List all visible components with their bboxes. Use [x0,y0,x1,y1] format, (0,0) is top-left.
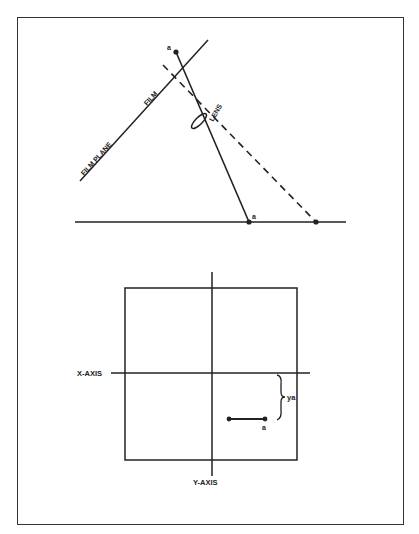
x-axis-label: X-AXIS [77,369,102,378]
ground-point-b [313,219,318,224]
film-plane-label: FILM PLANE [80,141,114,177]
ya-brace-icon [277,375,285,420]
film-frame-box [125,288,297,460]
film-point [173,49,178,54]
point-a-label: a [262,424,266,431]
segment-start-point [227,417,232,422]
top-figure: a a FILM PLANE FILM LENS [75,40,346,225]
ground-point-label: a [252,213,256,220]
diagram-canvas: a a FILM PLANE FILM LENS X-AXIS Y-AXIS y… [0,0,419,534]
y-axis-label: Y-AXIS [193,478,218,487]
film-point-label: a [167,44,171,51]
ground-point-a [246,219,251,224]
segment-end-point [263,417,268,422]
solid-ray [176,52,249,222]
bottom-figure: X-AXIS Y-AXIS ya a [77,272,310,487]
ya-label: ya [287,393,296,402]
